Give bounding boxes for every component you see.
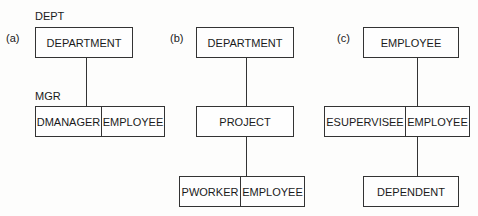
mgr-caption: MGR — [35, 90, 61, 102]
employee-record-c: EMPLOYEE — [363, 27, 459, 58]
panel-label-c: (c) — [337, 32, 350, 44]
pworker-record: PWORKER EMPLOYEE — [179, 176, 305, 207]
employee-field: EMPLOYEE — [241, 177, 304, 206]
employee-label: EMPLOYEE — [103, 116, 164, 128]
dependent-label: DEPENDENT — [377, 186, 445, 198]
dependent-record: DEPENDENT — [363, 176, 459, 207]
panel-label-a: (a) — [6, 32, 19, 44]
esupervisee-field: ESUPERVISEE — [325, 107, 406, 136]
connector-a1 — [86, 58, 87, 106]
department-label: DEPARTMENT — [47, 37, 122, 49]
pworker-field: PWORKER — [180, 177, 241, 206]
department-record-a: DEPARTMENT — [35, 27, 133, 58]
pworker-label: PWORKER — [182, 186, 239, 198]
mgr-record: DMANAGER EMPLOYEE — [35, 106, 165, 137]
project-label: PROJECT — [219, 116, 270, 128]
connector-c2 — [417, 137, 418, 176]
esupervisee-label: ESUPERVISEE — [326, 116, 403, 128]
department-record-b: DEPARTMENT — [196, 27, 294, 58]
employee-field: EMPLOYEE — [102, 107, 164, 136]
connector-c1 — [417, 58, 418, 106]
esupervisee-record: ESUPERVISEE EMPLOYEE — [324, 106, 470, 137]
connector-b1 — [246, 58, 247, 106]
dmanager-label: DMANAGER — [37, 116, 101, 128]
employee-label: EMPLOYEE — [381, 37, 442, 49]
employee-label: EMPLOYEE — [407, 116, 468, 128]
dmanager-field: DMANAGER — [36, 107, 102, 136]
hierarchical-schema-diagram: (a) DEPT DEPARTMENT MGR DMANAGER EMPLOYE… — [0, 0, 478, 216]
project-record: PROJECT — [196, 106, 294, 137]
department-label: DEPARTMENT — [208, 37, 283, 49]
connector-b2 — [246, 137, 247, 176]
dept-caption: DEPT — [35, 10, 64, 22]
employee-label: EMPLOYEE — [242, 186, 303, 198]
employee-field: EMPLOYEE — [406, 107, 469, 136]
panel-label-b: (b) — [170, 32, 183, 44]
